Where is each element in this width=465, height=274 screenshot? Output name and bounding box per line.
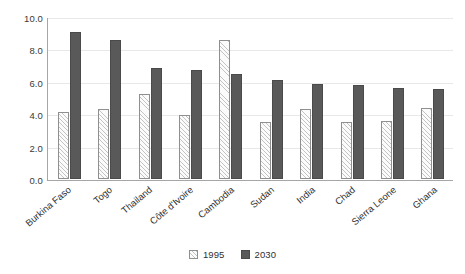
- bar-group: [372, 18, 412, 179]
- x-axis-label-slot: India: [292, 182, 333, 244]
- bar-2030: [151, 68, 162, 179]
- y-axis-tick-label: 2.0: [29, 142, 43, 153]
- bar-group: [332, 18, 372, 179]
- bar-2030: [433, 89, 444, 179]
- y-axis-tick-label: 6.0: [29, 77, 43, 88]
- legend-item-1995: 1995: [189, 249, 225, 260]
- bar-1995: [58, 112, 69, 179]
- x-axis-label-slot: Burkina Faso: [48, 182, 89, 244]
- bar-2030: [312, 84, 323, 179]
- bar-2030: [353, 85, 364, 179]
- x-axis-label-slot: Sierra Leone: [373, 182, 414, 244]
- bar-2030: [272, 80, 283, 179]
- bar-group: [130, 18, 170, 179]
- legend-label-2030: 2030: [255, 249, 277, 260]
- bar-2030: [191, 70, 202, 179]
- bar-1995: [300, 109, 311, 179]
- bar-2030: [70, 32, 81, 179]
- legend-swatch-2030: [241, 250, 250, 259]
- bar-2030: [393, 88, 404, 179]
- x-axis-label-slot: Cambodia: [210, 182, 251, 244]
- bar-1995: [381, 121, 392, 179]
- bar-1995: [341, 122, 352, 180]
- legend-label-1995: 1995: [203, 249, 225, 260]
- legend-item-2030: 2030: [241, 249, 277, 260]
- y-axis-tick-label: 10.0: [24, 13, 43, 24]
- y-axis-tick-label: 0.0: [29, 175, 43, 186]
- y-axis-tick-label: 4.0: [29, 110, 43, 121]
- chart-legend: 1995 2030: [0, 249, 465, 260]
- x-axis-label-slot: Ghana: [413, 182, 454, 244]
- bar-group: [291, 18, 331, 179]
- bar-2030: [231, 74, 242, 179]
- y-axis-tick-label: 8.0: [29, 45, 43, 56]
- x-axis-labels: Burkina FasoTogoThailandCôte d'IvoireCam…: [48, 182, 454, 244]
- bar-group: [49, 18, 89, 179]
- x-axis-label-slot: Sudan: [251, 182, 292, 244]
- bar-group: [170, 18, 210, 179]
- legend-swatch-1995: [189, 250, 198, 259]
- bar-1995: [139, 94, 150, 179]
- bar-group: [251, 18, 291, 179]
- bar-chart: 0.02.04.06.08.010.0 Burkina FasoTogoThai…: [0, 0, 465, 274]
